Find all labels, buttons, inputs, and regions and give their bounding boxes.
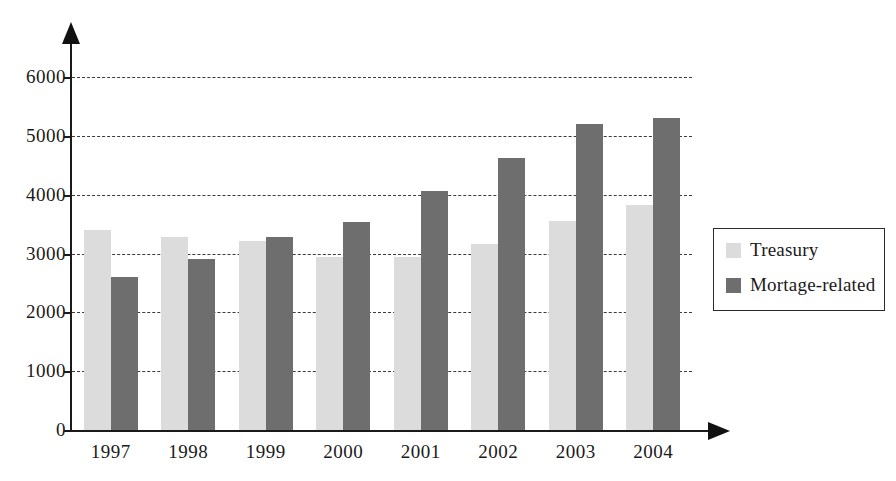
bar-1999-treasury [239,241,266,430]
bar-2004-treasury [626,205,653,430]
legend-label-treasury: Treasury [750,240,818,260]
y-axis-tick-label: 0 [4,420,66,439]
bar-2002-treasury [471,244,498,430]
x-axis-tick-label: 1998 [150,441,228,463]
bar-series-group [72,0,692,481]
bar-1998-treasury [161,237,188,430]
legend-swatch-treasury-icon [726,243,741,258]
legend-swatch-mortage-related-icon [726,278,741,293]
y-axis-tick-label: 4000 [4,185,66,204]
bar-1997-treasury [84,230,111,430]
bar-1998-mortage-related [188,259,215,430]
x-axis-tick-label: 2003 [537,441,615,463]
bar-chart: 0100020003000400050006000 19971998199920… [0,0,896,481]
bar-1997-mortage-related [111,277,138,430]
bar-2004-mortage-related [653,118,680,430]
bar-2003-mortage-related [576,124,603,430]
y-axis-tick-label: 1000 [4,361,66,380]
bar-2003-treasury [549,221,576,430]
x-axis-arrowhead-icon [708,422,730,440]
bar-2000-treasury [316,257,343,430]
y-axis-tick-label: 3000 [4,244,66,263]
x-axis-tick-label: 1997 [72,441,150,463]
bar-2001-mortage-related [421,191,448,430]
bar-2000-mortage-related [343,222,370,430]
x-axis-tick-label: 1999 [227,441,305,463]
bar-2001-treasury [394,257,421,430]
chart-legend: Treasury Mortage-related [713,228,885,311]
x-axis-tick-label: 2001 [382,441,460,463]
legend-item-treasury: Treasury [726,240,818,260]
legend-item-mortage-related: Mortage-related [726,275,875,295]
bar-2002-mortage-related [498,158,525,430]
x-axis-tick-label: 2002 [460,441,538,463]
x-axis-tick-label: 2000 [305,441,383,463]
y-axis-tick-label: 2000 [4,302,66,321]
y-axis-tick-label: 6000 [4,67,66,86]
legend-label-mortage-related: Mortage-related [750,275,875,295]
x-axis-tick-label: 2004 [615,441,693,463]
bar-1999-mortage-related [266,237,293,430]
y-axis-tick-label: 5000 [4,126,66,145]
y-axis-tick-labels: 0100020003000400050006000 [0,0,66,481]
